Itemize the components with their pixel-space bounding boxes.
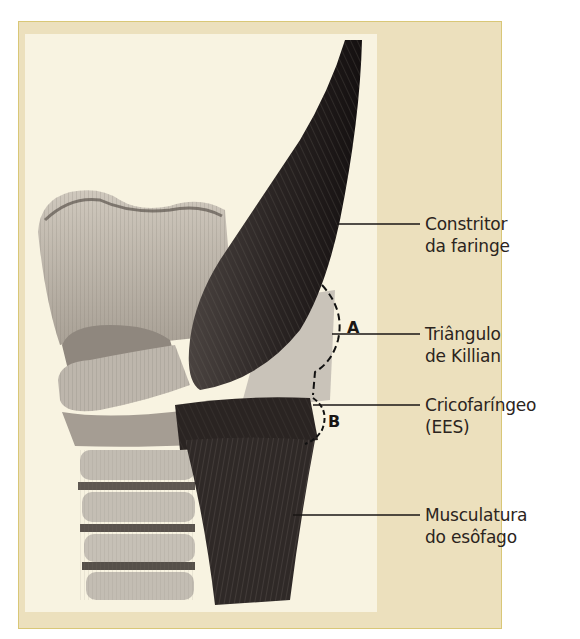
cricoid-cartilage <box>58 325 195 447</box>
label-constritor: Constritor da faringe <box>425 213 510 257</box>
region-marker-b: B <box>328 412 340 431</box>
region-marker-a: A <box>347 318 359 337</box>
label-killian: Triângulo de Killian <box>425 323 501 367</box>
label-cricofaringeo: Cricofaríngeo (EES) <box>425 394 536 438</box>
tracheal-rings <box>78 450 195 600</box>
esophageal-muscle <box>185 438 315 606</box>
label-esofago: Musculatura do esôfago <box>425 504 527 548</box>
